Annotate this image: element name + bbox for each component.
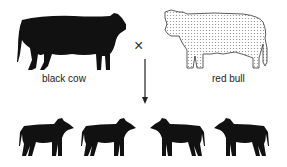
- black-cow-label: black cow: [42, 73, 86, 84]
- calf-3: [150, 116, 206, 160]
- black-calf-icon: [18, 116, 74, 160]
- black-calf-icon: [150, 116, 206, 160]
- black-cow-icon: [14, 10, 126, 74]
- black-calf-icon: [80, 116, 136, 160]
- calf-1: [18, 116, 74, 160]
- red-bull-icon: [163, 8, 273, 74]
- calf-2: [80, 116, 136, 160]
- arrow-down-icon: [142, 59, 148, 105]
- red-bull-figure: [163, 8, 273, 74]
- offspring-arrow: [142, 59, 148, 105]
- calf-4: [214, 116, 270, 160]
- black-cow-figure: [14, 10, 126, 74]
- black-calf-icon: [214, 116, 270, 160]
- cross-symbol: ×: [134, 38, 143, 54]
- red-bull-label: red bull: [212, 73, 245, 84]
